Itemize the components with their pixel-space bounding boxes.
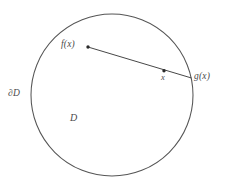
figure-canvas (0, 0, 227, 189)
math-figure-disk-with-boundary-map: f(x) x g(x) ∂D D (0, 0, 227, 189)
label-point-fx: f(x) (61, 40, 75, 50)
domain-boundary-circle (31, 14, 193, 176)
point-marker-fx (86, 45, 89, 48)
label-point-gx: g(x) (194, 72, 210, 82)
label-domain-boundary: ∂D (8, 89, 20, 99)
label-domain-interior: D (70, 113, 77, 123)
label-point-x: x (161, 73, 165, 82)
